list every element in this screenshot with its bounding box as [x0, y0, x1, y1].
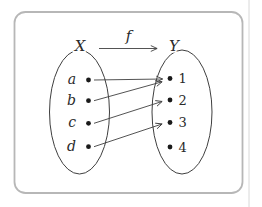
element-label-3: 3: [179, 115, 187, 130]
mapping-arrow-d-to-3: [94, 124, 162, 147]
function-mapping-figure: X Y f a b c d 1 2 3 4: [0, 0, 262, 207]
element-label-a: a: [68, 71, 76, 87]
set-y-label: Y: [169, 37, 181, 55]
element-label-b: b: [67, 92, 76, 108]
element-dot-1: [168, 76, 173, 81]
element-dot-c: [86, 121, 91, 126]
element-label-1: 1: [179, 71, 187, 86]
function-label: f: [125, 27, 134, 45]
element-dot-d: [86, 144, 91, 149]
element-dot-3: [168, 120, 173, 125]
set-x-ellipse: [50, 50, 110, 174]
function-mapping-diagram: X Y f a b c d 1 2 3 4: [0, 0, 262, 207]
set-y-ellipse: [152, 50, 212, 174]
element-dot-b: [86, 98, 91, 103]
element-dot-4: [168, 145, 173, 150]
element-dot-a: [86, 78, 91, 83]
mapping-arrow-a-to-1: [94, 79, 163, 80]
element-label-d: d: [67, 138, 76, 154]
element-label-2: 2: [179, 93, 187, 108]
mapping-arrow-b-to-1: [94, 82, 162, 101]
element-dot-2: [168, 98, 173, 103]
element-label-4: 4: [179, 140, 187, 155]
set-x-label: X: [74, 37, 87, 55]
element-label-c: c: [68, 114, 76, 130]
